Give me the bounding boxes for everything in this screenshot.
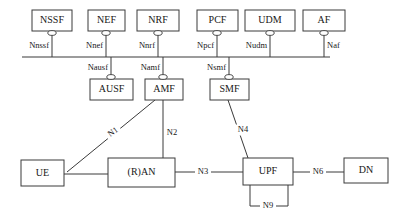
node-dn: DN: [344, 158, 388, 183]
pcf-service-socket-icon: [213, 31, 221, 36]
node-ue: UE: [21, 160, 64, 186]
diagram-canvas: NSSFNnssfNEFNnefNRFNnrfPCFNpcfUDMNudmAFN…: [0, 0, 408, 221]
af-label: AF: [318, 14, 331, 25]
reference-point-n6: N6: [310, 166, 326, 177]
ue-label: UE: [36, 167, 49, 178]
udm-service-socket-icon: [266, 31, 274, 36]
nssf-service-socket-icon: [48, 31, 56, 36]
n2-label: N2: [167, 127, 177, 137]
nrf-label: NRF: [148, 14, 168, 25]
node-ausf: AUSF: [90, 79, 133, 100]
n4-label: N4: [238, 124, 249, 134]
smf-service-label: Nsmf: [207, 62, 226, 72]
amf-service-label: Namf: [141, 62, 161, 72]
reference-point-n3: N3: [195, 166, 211, 177]
nef-label: NEF: [97, 14, 116, 25]
smf-label: SMF: [219, 83, 239, 94]
reference-point-n2: N2: [164, 127, 180, 138]
ausf-label: AUSF: [99, 83, 125, 94]
nrf-service-label: Nnrf: [139, 40, 155, 50]
nssf-label: NSSF: [40, 14, 64, 25]
5g-sba-diagram: NSSFNnssfNEFNnefNRFNnrfPCFNpcfUDMNudmAFN…: [0, 0, 408, 221]
reference-point-n4: N4: [235, 124, 251, 135]
node-ran: (R)AN: [108, 158, 175, 187]
node-upf: UPF: [243, 158, 293, 185]
nssf-service-label: Nnssf: [29, 40, 49, 50]
node-nssf: NSSF: [32, 10, 72, 31]
af-service-socket-icon: [320, 31, 328, 36]
smf-service-socket-icon: [225, 75, 233, 80]
node-amf: AMF: [145, 79, 183, 100]
reference-point-n9: N9: [260, 200, 276, 211]
node-af: AF: [303, 10, 345, 31]
ausf-service-socket-icon: [107, 75, 115, 80]
ran-label: (R)AN: [128, 166, 156, 178]
amf-label: AMF: [153, 83, 175, 94]
ausf-service-label: Nausf: [88, 62, 108, 72]
udm-service-label: Nudm: [246, 40, 268, 50]
node-nrf: NRF: [137, 10, 179, 31]
n6-label: N6: [313, 166, 323, 176]
node-udm: UDM: [245, 10, 295, 31]
dn-label: DN: [359, 164, 373, 175]
connection-edges: [64, 100, 344, 206]
reference-point-n1: N1: [103, 123, 122, 141]
amf-service-socket-icon: [159, 75, 167, 80]
n9-label: N9: [263, 200, 273, 210]
nef-service-label: Nnef: [86, 40, 103, 50]
node-smf: SMF: [210, 79, 249, 100]
top-node-group: NSSFNnssfNEFNnefNRFNnrfPCFNpcfUDMNudmAFN…: [29, 10, 345, 57]
mid-node-group: AUSFNausfAMFNamfSMFNsmf: [88, 57, 249, 100]
pcf-label: PCF: [209, 14, 227, 25]
nef-service-socket-icon: [102, 31, 110, 36]
node-pcf: PCF: [197, 10, 238, 31]
node-nef: NEF: [88, 10, 125, 31]
af-service-label: Naf: [327, 40, 340, 50]
udm-label: UDM: [258, 14, 281, 25]
pcf-service-label: Npcf: [197, 40, 214, 50]
upf-label: UPF: [259, 165, 278, 176]
nrf-service-socket-icon: [154, 31, 162, 36]
n3-label: N3: [198, 166, 208, 176]
